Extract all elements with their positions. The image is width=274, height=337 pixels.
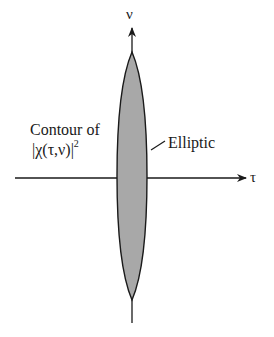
diagram-canvas xyxy=(0,0,274,337)
elliptic-label: Elliptic xyxy=(168,134,215,152)
tau-axis-label: τ xyxy=(250,169,256,186)
contour-label-line2: |χ(τ,ν)|2 xyxy=(32,141,79,159)
contour-label-line1: Contour of xyxy=(30,121,100,139)
elliptic-leader-line xyxy=(151,141,165,150)
ambiguity-function-expression: |χ(τ,ν)| xyxy=(32,141,74,158)
ambiguity-contour-diagram: ν τ Contour of |χ(τ,ν)|2 Elliptic xyxy=(0,0,274,337)
nu-axis-label: ν xyxy=(126,6,133,23)
elliptic-contour xyxy=(117,52,147,300)
exponent: 2 xyxy=(74,138,79,149)
